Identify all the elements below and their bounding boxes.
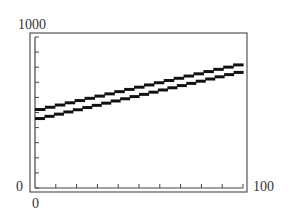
y-max-label: 1000 — [18, 18, 46, 32]
calculator-graph — [0, 0, 296, 223]
y-min-label: 0 — [16, 180, 23, 194]
outer-frame — [30, 33, 247, 192]
x-min-label: 0 — [32, 197, 39, 211]
data-series — [35, 65, 244, 119]
x-max-label: 100 — [253, 180, 274, 194]
